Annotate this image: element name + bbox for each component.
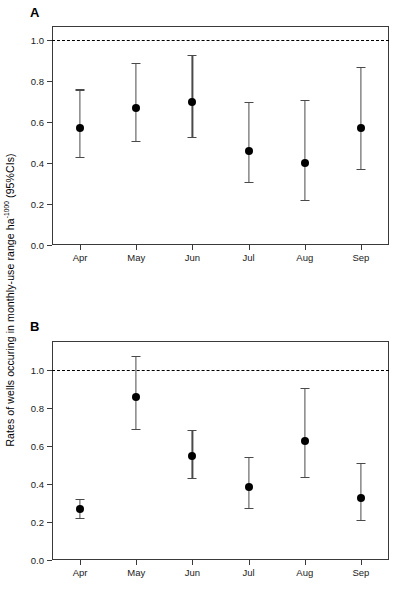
panel-b-letter: B xyxy=(30,320,39,333)
panel-a-errorbar-cap-upper-apr xyxy=(76,89,85,90)
panel-b-errorbar-sep xyxy=(360,463,361,520)
panel-b-y-tick-mark xyxy=(47,446,52,447)
panel-b-y-tick-mark xyxy=(47,484,52,485)
panel-b-datapoint-apr xyxy=(76,505,84,513)
panel-b-x-tick-label-may: May xyxy=(127,567,145,578)
panel-a-plot-frame xyxy=(52,26,389,245)
panel-b-y-tick-label: 0.0 xyxy=(31,555,44,566)
panel-b-x-tick-mark xyxy=(80,560,81,565)
panel-a-errorbar-jul xyxy=(248,102,249,182)
panel-a-x-tick-mark xyxy=(192,245,193,250)
panel-a-datapoint-may xyxy=(132,104,140,112)
panel-a-datapoint-jun xyxy=(188,98,196,106)
y-axis-title: Rates of wells occuring in monthly-use r… xyxy=(5,153,16,446)
panel-b-errorbar-cap-lower-jun xyxy=(188,478,197,479)
panel-b-errorbar-cap-upper-aug xyxy=(300,388,309,389)
panel-a-x-tick-label-jul: Jul xyxy=(243,252,255,263)
panel-b-y-tick-label: 0.2 xyxy=(31,516,44,527)
panel-b-datapoint-jul xyxy=(245,483,253,491)
panel-b-datapoint-jun xyxy=(188,452,196,460)
panel-b-errorbar-cap-lower-aug xyxy=(300,477,309,478)
panel-b-y-tick-label: 0.8 xyxy=(31,402,44,413)
panel-a-datapoint-aug xyxy=(301,159,309,167)
panel-a-errorbar-cap-lower-sep xyxy=(356,169,365,170)
panel-a-errorbar-aug xyxy=(304,100,305,200)
panel-a-y-tick-label: 0.4 xyxy=(31,158,44,169)
panel-b-x-tick-mark xyxy=(361,560,362,565)
panel-b-errorbar-cap-lower-may xyxy=(132,429,141,430)
panel-b-errorbar-cap-upper-may xyxy=(132,356,141,357)
panel-a-datapoint-apr xyxy=(76,124,84,132)
panel-a-x-tick-label-apr: Apr xyxy=(73,252,88,263)
panel-a-errorbar-cap-lower-jun xyxy=(188,137,197,138)
panel-b-datapoint-aug xyxy=(301,437,309,445)
panel-a-errorbar-cap-lower-jul xyxy=(244,182,253,183)
panel-b-datapoint-may xyxy=(132,393,140,401)
panel-b-reference-line xyxy=(52,370,389,371)
panel-a-y-tick-mark xyxy=(47,245,52,246)
panel-b-x-tick-mark xyxy=(136,560,137,565)
panel-a-y-tick-mark xyxy=(47,122,52,123)
panel-a-x-tick-label-aug: Aug xyxy=(296,252,313,263)
panel-a-y-tick-label: 0.0 xyxy=(31,240,44,251)
panel-b-y-tick-mark xyxy=(47,560,52,561)
panel-a-datapoint-sep xyxy=(357,124,365,132)
figure-container: Rates of wells occuring in monthly-use r… xyxy=(0,0,401,600)
panel-a-reference-line xyxy=(52,40,389,41)
panel-b-errorbar-cap-upper-jul xyxy=(244,457,253,458)
panel-a-x-tick-label-jun: Jun xyxy=(185,252,200,263)
panel-b-x-tick-label-aug: Aug xyxy=(296,567,313,578)
panel-a-errorbar-cap-lower-aug xyxy=(300,200,309,201)
panel-a-x-tick-mark xyxy=(249,245,250,250)
panel-b-y-tick-mark xyxy=(47,522,52,523)
panel-b-errorbar-cap-upper-jun xyxy=(188,430,197,431)
panel-b-x-tick-mark xyxy=(305,560,306,565)
panel-a-y-tick-mark xyxy=(47,163,52,164)
panel-a-letter: A xyxy=(30,6,39,19)
panel-a-errorbar-cap-lower-apr xyxy=(76,157,85,158)
panel-a-errorbar-jun xyxy=(192,55,193,137)
panel-a-errorbar-cap-upper-aug xyxy=(300,100,309,101)
panel-b-x-tick-label-jul: Jul xyxy=(243,567,255,578)
panel-a-errorbar-cap-upper-may xyxy=(132,63,141,64)
panel-a-errorbar-cap-lower-may xyxy=(132,141,141,142)
panel-b-x-tick-label-jun: Jun xyxy=(185,567,200,578)
panel-b-errorbar-cap-upper-sep xyxy=(356,463,365,464)
panel-b-y-tick-label: 1.0 xyxy=(31,364,44,375)
panel-b-plot-frame xyxy=(52,341,389,560)
panel-a-y-tick-label: 0.2 xyxy=(31,199,44,210)
panel-b-errorbar-cap-upper-apr xyxy=(76,499,85,500)
panel-a-x-tick-label-sep: Sep xyxy=(352,252,369,263)
panel-b-x-tick-label-sep: Sep xyxy=(352,567,369,578)
panel-a-x-tick-mark xyxy=(361,245,362,250)
panel-b-errorbar-aug xyxy=(304,388,305,478)
panel-b-x-tick-label-apr: Apr xyxy=(73,567,88,578)
panel-a-y-tick-label: 0.8 xyxy=(31,76,44,87)
panel-a-errorbar-sep xyxy=(360,67,361,169)
panel-a-y-tick-mark xyxy=(47,204,52,205)
panel-b-x-tick-mark xyxy=(192,560,193,565)
panel-a-x-tick-label-may: May xyxy=(127,252,145,263)
panel-a-errorbar-may xyxy=(136,63,137,141)
panel-b-errorbar-cap-lower-sep xyxy=(356,520,365,521)
panel-a-y-tick-label: 0.6 xyxy=(31,117,44,128)
y-axis-title-tail: (95%CIs) xyxy=(4,153,16,201)
panel-a-x-tick-mark xyxy=(305,245,306,250)
panel-a-errorbar-cap-upper-jul xyxy=(244,102,253,103)
panel-b-y-tick-label: 0.6 xyxy=(31,440,44,451)
panel-b-y-tick-mark xyxy=(47,408,52,409)
panel-a-errorbar-cap-upper-sep xyxy=(356,67,365,68)
panel-a-datapoint-jul xyxy=(245,147,253,155)
panel-a-y-tick-label: 1.0 xyxy=(31,35,44,46)
panel-b-y-tick-label: 0.4 xyxy=(31,478,44,489)
panel-b-x-tick-mark xyxy=(249,560,250,565)
y-axis-title-superscript: -1000 xyxy=(3,201,10,218)
panel-a-y-tick-mark xyxy=(47,81,52,82)
panel-a-errorbar-apr xyxy=(79,89,80,157)
y-axis-title-main: Rates of wells occuring in monthly-use r… xyxy=(4,218,16,446)
panel-a-x-tick-mark xyxy=(80,245,81,250)
panel-b-datapoint-sep xyxy=(357,494,365,502)
panel-b-errorbar-cap-lower-jul xyxy=(244,508,253,509)
panel-a-x-tick-mark xyxy=(136,245,137,250)
y-axis-title-container: Rates of wells occuring in monthly-use r… xyxy=(0,0,20,600)
